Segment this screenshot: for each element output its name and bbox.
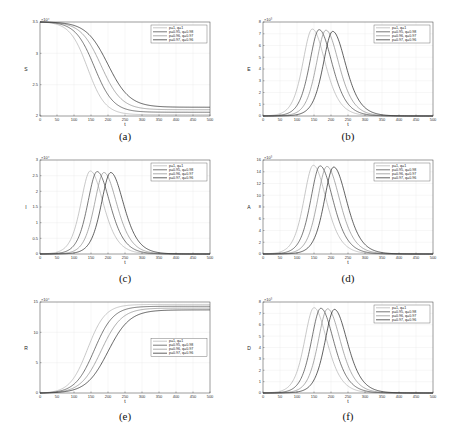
y-tick-label: 1 — [259, 102, 262, 107]
x-tick-label: 500 — [430, 117, 437, 122]
y-tick-label: 4 — [259, 228, 262, 233]
y-exponent-label: ×10⁴ — [41, 17, 50, 22]
x-tick-label: 450 — [190, 394, 197, 399]
y-tick-label: 0.5 — [32, 236, 38, 241]
y-tick-label: 2 — [259, 240, 262, 245]
x-tick-label: 150 — [88, 394, 95, 399]
chart-panel-a: 05010015020025030035040045050022.533.5×1… — [24, 17, 214, 143]
y-tick-label: 2 — [36, 189, 39, 194]
panel-caption-f: (f) — [343, 410, 354, 423]
chart-panel-e: 050100150200250300350400450500051015×10⁴… — [24, 297, 214, 423]
y-exponent-label: ×10³ — [264, 155, 273, 160]
x-tick-label: 500 — [430, 255, 437, 260]
x-tick-label: 450 — [413, 255, 420, 260]
x-tick-label: 50 — [278, 117, 283, 122]
x-tick-label: 300 — [139, 117, 146, 122]
y-tick-label: 7 — [259, 31, 262, 36]
y-tick-label: 8 — [259, 19, 262, 24]
y-tick-label: 7 — [259, 311, 262, 316]
y-tick-label: 8 — [259, 204, 262, 209]
y-axis-label: S — [24, 66, 28, 72]
y-tick-label: 6 — [259, 43, 262, 48]
x-tick-label: 150 — [88, 117, 95, 122]
x-tick-label: 350 — [379, 117, 386, 122]
y-exponent-label: ×10³ — [264, 297, 273, 302]
legend-entry-4: p=0.97, q=0.96 — [169, 351, 193, 355]
panel-caption-a: (a) — [119, 130, 132, 143]
x-tick-label: 200 — [105, 255, 112, 260]
x-tick-label: 400 — [173, 255, 180, 260]
x-tick-label: 200 — [105, 117, 112, 122]
x-tick-label: 400 — [396, 117, 403, 122]
x-tick-label: 200 — [328, 394, 335, 399]
panel-caption-e: (e) — [119, 410, 132, 423]
x-tick-label: 100 — [71, 255, 78, 260]
chart-panel-d: 0501001502002503003504004505000246810121… — [247, 155, 437, 285]
y-tick-label: 3.5 — [32, 19, 38, 24]
y-tick-label: 8 — [259, 299, 262, 304]
x-tick-label: 100 — [71, 394, 78, 399]
y-tick-label: 6 — [259, 322, 262, 327]
x-tick-label: 450 — [190, 117, 197, 122]
x-tick-label: 300 — [139, 394, 146, 399]
y-tick-label: 5 — [36, 360, 39, 365]
panel-caption-d: (d) — [342, 272, 355, 285]
x-tick-label: 400 — [173, 394, 180, 399]
x-tick-label: 100 — [294, 117, 301, 122]
y-tick-label: 2.5 — [32, 82, 38, 87]
x-tick-label: 0 — [262, 117, 265, 122]
x-tick-label: 350 — [379, 394, 386, 399]
x-tick-label: 50 — [278, 394, 283, 399]
y-tick-label: 2 — [259, 368, 262, 373]
y-exponent-label: ×10⁴ — [41, 155, 50, 160]
y-tick-label: 12 — [257, 181, 262, 186]
legend-entry-4: p=0.97, q=0.96 — [392, 38, 416, 42]
y-tick-label: 3 — [259, 356, 262, 361]
chart-panel-f: 050100150200250300350400450500012345678×… — [247, 297, 437, 423]
x-tick-label: 150 — [88, 255, 95, 260]
x-tick-label: 50 — [55, 394, 60, 399]
x-tick-label: 500 — [207, 255, 214, 260]
legend-entry-4: p=0.97, q=0.96 — [392, 318, 416, 322]
x-tick-label: 0 — [262, 255, 265, 260]
y-axis-label: E — [247, 66, 251, 72]
x-tick-label: 0 — [39, 255, 42, 260]
y-tick-label: 10 — [34, 330, 39, 335]
y-tick-label: 14 — [257, 169, 262, 174]
y-exponent-label: ×10⁴ — [41, 297, 50, 302]
x-tick-label: 150 — [311, 394, 318, 399]
x-tick-label: 350 — [156, 117, 163, 122]
x-tick-label: 500 — [207, 117, 214, 122]
x-tick-label: 350 — [156, 394, 163, 399]
y-tick-label: 5 — [259, 334, 262, 339]
x-tick-label: 500 — [430, 394, 437, 399]
x-tick-label: 350 — [379, 255, 386, 260]
y-tick-label: 1 — [36, 220, 39, 225]
y-tick-label: 3 — [259, 78, 262, 83]
x-tick-label: 100 — [294, 394, 301, 399]
chart-panel-c: 05010015020025030035040045050000.511.522… — [25, 155, 214, 285]
y-tick-label: 15 — [34, 299, 39, 304]
x-tick-label: 450 — [190, 255, 197, 260]
x-tick-label: 0 — [39, 117, 42, 122]
x-tick-label: 400 — [173, 117, 180, 122]
x-tick-label: 450 — [413, 394, 420, 399]
y-axis-label: R — [24, 345, 28, 351]
x-tick-label: 150 — [311, 255, 318, 260]
y-tick-label: 4 — [259, 66, 262, 71]
x-tick-label: 150 — [311, 117, 318, 122]
x-tick-label: 300 — [362, 394, 369, 399]
panel-caption-b: (b) — [342, 130, 355, 143]
x-tick-label: 300 — [362, 117, 369, 122]
x-tick-label: 500 — [207, 394, 214, 399]
x-tick-label: 400 — [396, 394, 403, 399]
y-tick-label: 1.5 — [32, 204, 38, 209]
y-tick-label: 5 — [259, 55, 262, 60]
x-tick-label: 350 — [156, 255, 163, 260]
x-tick-label: 50 — [278, 255, 283, 260]
y-axis-label: I — [25, 204, 26, 210]
y-axis-label: D — [247, 345, 251, 351]
x-tick-label: 100 — [71, 117, 78, 122]
x-tick-label: 100 — [294, 255, 301, 260]
y-tick-label: 4 — [259, 345, 262, 350]
